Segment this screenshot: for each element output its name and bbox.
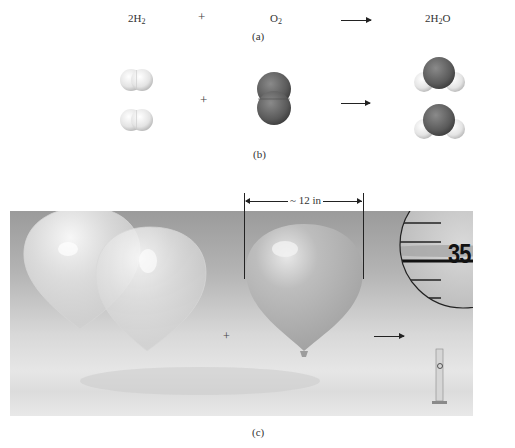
hydrogen-balloon-icon: [96, 227, 206, 351]
label-a: (a): [252, 30, 264, 42]
reaction-arrow-c: [374, 336, 404, 337]
plus-sign-a: +: [198, 9, 205, 25]
water-molecule-icon: [414, 104, 465, 139]
formula-2h2o: 2H2O: [425, 12, 450, 26]
arrowhead-right-icon: [357, 198, 362, 204]
hydrogen-molecule-icon: [120, 109, 153, 131]
plus-sign-c: +: [223, 329, 230, 344]
reaction-arrow-a: [341, 20, 371, 21]
formula-o2: O2: [270, 12, 282, 26]
balloon-scene: [10, 211, 473, 416]
label-c: (c): [252, 426, 264, 438]
oxygen-molecule-icon: [257, 72, 291, 125]
formula-2h2: 2H2: [128, 12, 145, 26]
arrowhead-left-icon: [245, 198, 250, 204]
oxygen-balloon-icon: [246, 224, 363, 351]
label-b: (b): [253, 148, 266, 160]
dimension-line-right: [363, 193, 364, 279]
balloon-photo: + 35: [10, 211, 473, 416]
cylinder-reading-35: 35: [448, 238, 471, 270]
graduated-cylinder-icon: [432, 349, 447, 404]
dimension-line-left: [244, 193, 245, 279]
water-molecule-icon: [414, 57, 465, 92]
reaction-arrow-b: [341, 103, 370, 104]
dimension-label: ~ 12 in: [288, 194, 323, 206]
plus-sign-b: +: [200, 92, 207, 108]
hydrogen-molecule-icon: [120, 69, 153, 91]
